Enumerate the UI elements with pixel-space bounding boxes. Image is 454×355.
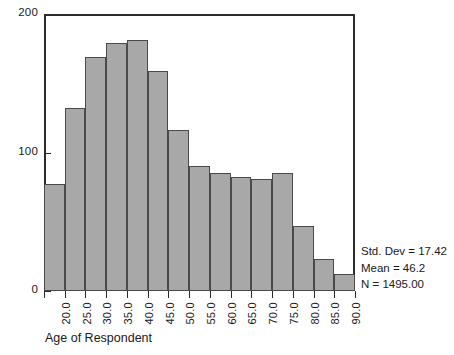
x-axis-tick-label: 70.0 <box>267 302 279 325</box>
histogram-chart: 0100200 20.025.030.035.040.045.050.055.0… <box>0 0 454 355</box>
x-axis-tick-label: 20.0 <box>60 302 72 325</box>
x-axis-labels: 20.025.030.035.040.045.050.055.060.065.0… <box>0 0 454 355</box>
x-axis-tick-label: 30.0 <box>101 302 113 325</box>
mean-text: Mean = 46.2 <box>361 260 447 277</box>
x-axis-tick-label: 40.0 <box>143 302 155 325</box>
x-axis-tick-label: 55.0 <box>205 302 217 325</box>
x-axis-tick-label: 75.0 <box>288 302 300 325</box>
std-dev-text: Std. Dev = 17.42 <box>361 243 447 260</box>
x-axis-tick-label: 90.0 <box>350 302 362 325</box>
n-text: N = 1495.00 <box>361 276 447 293</box>
x-axis-tick-label: 35.0 <box>122 302 134 325</box>
x-axis-title: Age of Respondent <box>45 331 152 345</box>
x-axis-tick-label: 50.0 <box>184 302 196 325</box>
x-axis-tick-label: 25.0 <box>81 302 93 325</box>
x-axis-tick-label: 85.0 <box>329 302 341 325</box>
x-axis-tick-label: 65.0 <box>246 302 258 325</box>
x-axis-tick-label: 60.0 <box>226 302 238 325</box>
statistics-annotation: Std. Dev = 17.42 Mean = 46.2 N = 1495.00 <box>361 243 447 293</box>
x-axis-tick-label: 45.0 <box>164 302 176 325</box>
x-axis-tick-label: 80.0 <box>309 302 321 325</box>
